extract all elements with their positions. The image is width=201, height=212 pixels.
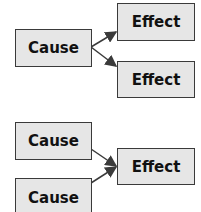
arrow-cause-2-to-effect <box>91 167 116 183</box>
cause-box-bottom-1: Cause <box>15 122 92 160</box>
arrow-cause-1-to-effect <box>91 149 116 166</box>
effect-box-top-2: Effect <box>117 61 195 98</box>
arrow-cause-to-effect-2 <box>91 47 116 66</box>
arrow-cause-to-effect-1 <box>91 32 116 47</box>
effect-label: Effect <box>132 158 181 176</box>
effect-label: Effect <box>132 71 181 89</box>
cause-label: Cause <box>28 132 79 150</box>
cause-box-top: Cause <box>15 29 92 67</box>
effect-label: Effect <box>132 13 181 31</box>
cause-label: Cause <box>28 189 79 207</box>
effect-box-top-1: Effect <box>117 3 195 41</box>
effect-box-bottom: Effect <box>117 148 195 185</box>
cause-label: Cause <box>28 39 79 57</box>
cause-box-bottom-2: Cause <box>15 178 92 212</box>
